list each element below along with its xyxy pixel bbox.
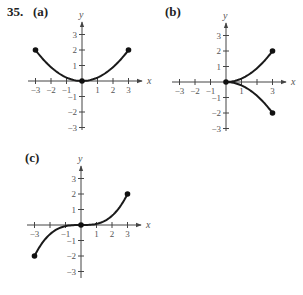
x-tick-label: −2: [190, 86, 200, 96]
y-tick-label: 2: [73, 45, 78, 55]
x-tick-label: −3: [30, 229, 40, 239]
point-marker: [125, 191, 131, 197]
x-tick-label: 3: [270, 86, 275, 96]
figure: 35. (a) (b) (c) xy−3−2−1123−3−2−1123 xy−…: [0, 0, 303, 295]
panel-label-b: (b): [165, 4, 181, 19]
x-tick-label: 3: [125, 229, 130, 239]
y-tick-label: −2: [67, 107, 77, 117]
y-tick-label: 3: [72, 174, 77, 184]
x-tick-label: 2: [110, 229, 115, 239]
point-marker: [79, 78, 85, 84]
curve: [226, 82, 273, 113]
y-tick-label: 2: [217, 46, 222, 56]
y-tick-label: −1: [211, 93, 221, 103]
x-tick-label: 1: [239, 86, 244, 96]
panel-label-a: (a): [33, 4, 48, 19]
y-axis-label: y: [78, 9, 84, 20]
y-tick-label: 3: [217, 31, 222, 41]
point-marker: [126, 47, 132, 53]
y-tick-label: −3: [67, 123, 77, 133]
y-tick-label: −1: [66, 236, 76, 246]
point-marker: [32, 253, 38, 259]
x-axis-label: x: [146, 75, 152, 86]
x-axis-label: x: [145, 219, 151, 230]
y-axis-label: y: [77, 153, 83, 164]
x-tick-label: −2: [46, 85, 56, 95]
point-marker: [223, 79, 229, 85]
y-tick-label: 1: [73, 61, 78, 71]
y-tick-label: −2: [66, 251, 76, 261]
y-axis-label: y: [222, 10, 228, 21]
panel-label-c: (c): [25, 150, 39, 165]
point-marker: [78, 222, 84, 228]
y-tick-label: −1: [67, 92, 77, 102]
x-tick-label: 2: [111, 85, 116, 95]
graph-b: xy−3−2−113−3−2−1123: [172, 10, 296, 134]
x-tick-label: −3: [31, 85, 41, 95]
x-tick-label: −3: [175, 86, 185, 96]
y-tick-label: −2: [211, 108, 221, 118]
x-tick-label: 3: [126, 85, 131, 95]
graph-c: xy−3−1123−3−2−1123: [27, 153, 151, 278]
y-tick-label: −3: [66, 267, 76, 277]
x-tick-label: 1: [95, 85, 100, 95]
x-tick-label: 1: [94, 229, 99, 239]
problem-number: 35.: [7, 4, 23, 19]
y-tick-label: 3: [73, 30, 78, 40]
y-tick-label: −3: [211, 124, 221, 134]
curve: [226, 51, 273, 82]
point-marker: [270, 48, 276, 54]
y-tick-label: 2: [72, 189, 77, 199]
y-tick-label: 1: [217, 62, 222, 72]
x-axis-label: x: [290, 76, 296, 87]
point-marker: [270, 110, 276, 116]
graph-a: xy−3−2−1123−3−2−1123: [28, 9, 152, 133]
y-tick-label: 1: [72, 205, 77, 215]
point-marker: [33, 47, 39, 53]
